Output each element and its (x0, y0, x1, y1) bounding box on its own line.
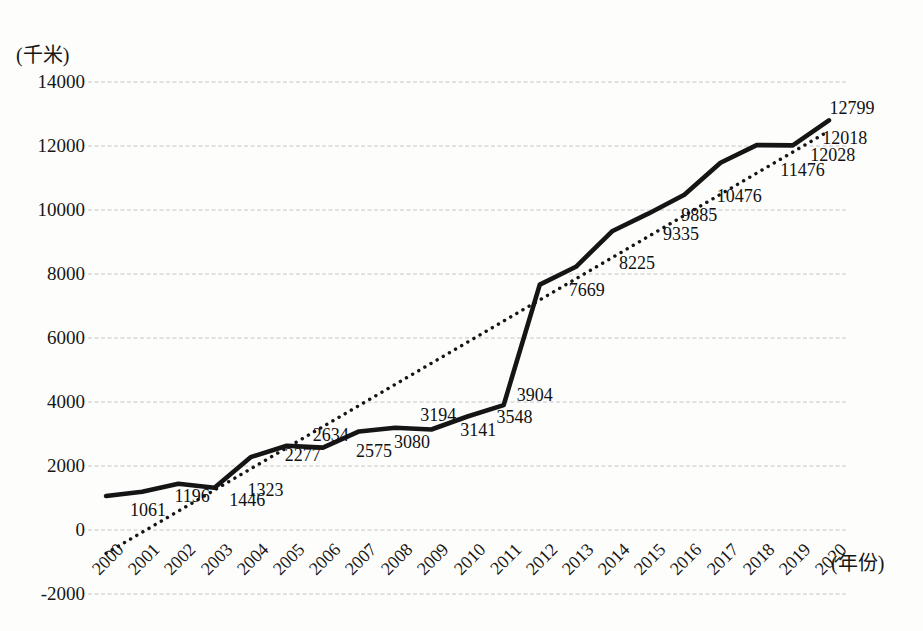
y-tick-label: 8000 (15, 263, 85, 285)
data-point-label: 1196 (175, 487, 210, 505)
data-point-label: 1323 (248, 481, 284, 499)
y-tick-label: 0 (15, 519, 85, 541)
data-point-label: 3194 (420, 406, 456, 424)
y-tick-label: 2000 (15, 455, 85, 477)
chart: 14000120001000080006000400020000-2000 20… (0, 0, 923, 631)
y-axis-unit-label: (千米) (16, 44, 69, 66)
y-tick-label: 14000 (15, 71, 85, 93)
data-point-label: 8225 (619, 254, 655, 272)
chart-canvas (0, 0, 923, 631)
x-axis-unit-label: (年份) (831, 552, 884, 574)
y-tick-label: 12000 (15, 135, 85, 157)
data-point-label: 2575 (356, 442, 392, 460)
data-point-label: 3080 (394, 433, 430, 451)
data-point-label: 12018 (822, 129, 867, 147)
y-tick-label: 10000 (15, 199, 85, 221)
data-point-label: 2634 (313, 426, 349, 444)
y-tick-label: 4000 (15, 391, 85, 413)
data-point-label: 3141 (460, 421, 496, 439)
data-point-label: 7669 (569, 281, 605, 299)
data-point-label: 9335 (663, 225, 699, 243)
y-tick-label: 6000 (15, 327, 85, 349)
data-point-label: 3548 (497, 408, 533, 426)
data-point-label: 12028 (810, 146, 855, 164)
data-point-label: 2277 (285, 446, 321, 464)
y-tick-label: -2000 (15, 583, 85, 605)
data-point-label: 9885 (681, 206, 717, 224)
data-point-label: 1061 (130, 501, 166, 519)
data-point-label: 3904 (517, 386, 553, 404)
data-point-label: 12799 (829, 99, 874, 117)
data-point-label: 10476 (717, 187, 762, 205)
